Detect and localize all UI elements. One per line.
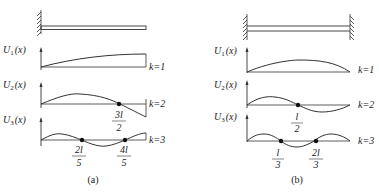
node-label-den: 2 [295,123,300,134]
mode-3-b: U3(x) l 3 2l 3 k=3 [214,111,374,170]
axis-subscript: 2 [10,84,14,92]
axis-subscript: 3 [10,119,14,127]
svg-text:U3(x): U3(x) [3,114,27,127]
axis-arrow-icon [246,114,249,119]
mode-2-b: U2(x) l 2 k=2 [214,79,374,134]
mode-1-b: U1(x) k=1 [214,45,374,75]
mode-shapes-figure: U1(x) k=1 U2(x) 3l 2 k=2 U3(x) [0,0,379,196]
mode-curve [247,60,350,72]
panel-a: U1(x) k=1 U2(x) 3l 2 k=2 U3(x) [3,10,165,186]
node-point [80,138,84,142]
axis-arrow-icon [246,80,249,85]
axis-arg: (x) [15,79,27,91]
axis-arg: (x) [15,44,27,56]
axis-arrow-icon [40,82,43,87]
mode-3-a: U3(x) 2l 5 4l 5 k=3 [3,114,165,168]
axis-arg: (x) [15,114,27,126]
k-label: k=1 [358,64,374,75]
svg-text:U1(x): U1(x) [214,45,238,58]
node-point [314,139,318,143]
node-label-num: l [296,111,299,122]
fixed-wall-right-b [350,14,354,40]
node-label-num: l [277,147,280,158]
caption-b: (b) [291,174,303,186]
node-point [296,103,300,107]
node-point [117,102,121,106]
fixed-fixed-beam [247,26,350,31]
node-label-den: 3 [275,159,281,170]
node-label-den: 2 [117,122,122,133]
mode-2-a: U2(x) 3l 2 k=2 [3,79,165,133]
k-label: k=1 [149,61,165,72]
node-label-num: 2l [312,147,320,158]
mode-1-a: U1(x) k=1 [3,44,165,72]
svg-text:U3(x): U3(x) [214,111,238,124]
node-label-num: 4l [120,144,128,155]
svg-text:U2(x): U2(x) [214,79,238,92]
axis-arrow-icon [246,47,249,52]
cantilever-beam [41,26,146,30]
node-label-num: 3l [114,109,123,120]
mode-curve [247,134,350,147]
svg-text:U2(x): U2(x) [3,79,27,92]
svg-text:U1(x): U1(x) [3,44,27,57]
mode-curve [41,133,146,146]
node-label-den: 5 [77,157,82,168]
axis-subscript: 2 [221,84,225,92]
node-point [123,138,127,142]
k-label: k=3 [149,134,165,145]
axis-arrow-icon [40,117,43,122]
caption-a: (a) [87,174,98,186]
mode-curve [41,54,146,67]
axis-arg: (x) [226,111,238,123]
panel-b: U1(x) k=1 U2(x) l 2 k=2 U3(x) [214,14,374,186]
mode-curve [41,94,146,117]
axis-arg: (x) [226,79,238,91]
node-label-num: 2l [75,144,83,155]
axis-arrow-icon [40,47,43,52]
k-label: k=3 [358,135,374,146]
fixed-wall-left-a [37,10,41,36]
fixed-wall-left-b [243,14,247,40]
axis-subscript: 1 [10,49,14,57]
axis-subscript: 3 [221,116,225,124]
node-label-den: 5 [122,157,127,168]
node-label-den: 3 [313,159,319,170]
axis-arg: (x) [226,45,238,57]
k-label: k=2 [149,98,165,109]
axis-subscript: 1 [221,50,225,58]
node-point [279,139,283,143]
k-label: k=2 [358,99,374,110]
